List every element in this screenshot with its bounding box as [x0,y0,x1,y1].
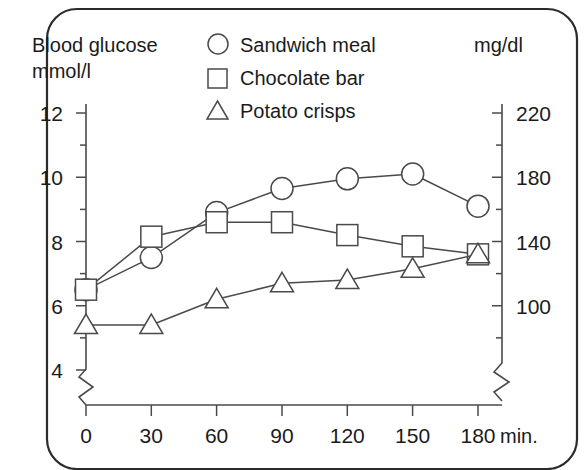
y-tick-label-4: 4 [51,359,63,382]
x-tick-label-30: 30 [140,424,163,447]
circle-data-point [402,163,424,185]
x-tick-label-150: 150 [395,424,430,447]
x-tick-label-0: 0 [80,424,92,447]
square-data-point [141,226,162,247]
square-data-point [206,212,227,233]
x-tick-label-60: 60 [205,424,228,447]
circle-data-point [467,195,489,217]
y-tick-label-12: 12 [40,102,63,125]
left-axis-title-line1: Blood glucose [32,34,158,56]
x-tick-label-180: 180 [460,424,495,447]
square-data-point [337,225,358,246]
circle-data-point [271,177,293,199]
legend-label-chocolate-bar: Chocolate bar [240,67,365,89]
square-data-point [272,212,293,233]
blood-glucose-chart-figure: Blood glucose mmol/l mg/dl Sandwich meal… [0,0,584,470]
y2-tick-label-140: 140 [516,231,551,254]
x-tick-label-90: 90 [270,424,293,447]
legend-label-potato-crisps: Potato crisps [240,100,356,122]
y2-tick-label-220: 220 [516,102,551,125]
legend-entry-potato-crisps: Potato crisps [207,100,356,122]
right-axis-title: mg/dl [474,34,523,56]
legend-entry-chocolate-bar: Chocolate bar [208,67,365,89]
triangle-marker-icon [207,101,228,119]
y-axis-left-line [79,104,93,405]
square-data-point [402,236,423,257]
y-tick-label-10: 10 [40,166,63,189]
triangle-data-point [75,314,98,334]
y-tick-label-8: 8 [51,231,63,254]
y-axis-right: 220 180 140 100 [492,102,551,401]
y-tick-label-6: 6 [51,295,63,318]
left-axis-title-line2: mmol/l [32,60,91,82]
triangle-data-point [271,272,294,292]
y2-tick-label-180: 180 [516,166,551,189]
square-data-point [76,279,97,300]
legend-entry-sandwich-meal: Sandwich meal [208,34,376,56]
legend-label-sandwich-meal: Sandwich meal [240,34,376,56]
square-marker-icon [208,69,227,88]
circle-marker-icon [208,34,228,54]
x-axis: 0 30 60 90 120 150 180 min. [80,405,538,447]
y2-tick-label-100: 100 [516,295,551,318]
legend: Sandwich meal Chocolate bar Potato crisp… [207,34,376,122]
y-axis-right-line [494,104,509,401]
circle-data-point [336,168,358,190]
series-potato-crisps [75,243,490,333]
triangle-data-point [140,314,163,334]
data-series-layer [75,163,490,333]
x-tick-label-120: 120 [330,424,365,447]
circle-data-point [140,247,162,269]
x-axis-unit-label: min. [500,425,538,447]
chart-canvas: Blood glucose mmol/l mg/dl Sandwich meal… [0,0,584,470]
